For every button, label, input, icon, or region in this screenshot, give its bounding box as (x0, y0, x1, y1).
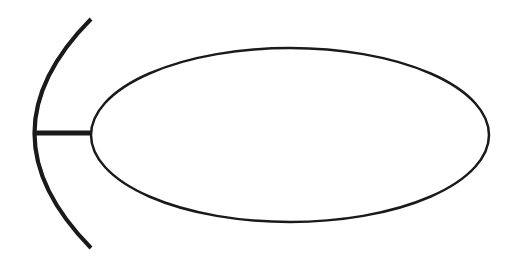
component-ellipse (91, 48, 489, 222)
interface-diagram (0, 0, 514, 270)
